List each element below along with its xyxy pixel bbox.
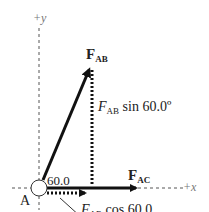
vert-rest: sin 60.0º: [119, 99, 171, 114]
point-a-label: A: [20, 194, 30, 208]
fab-arrow: [43, 70, 89, 180]
horizontal-component-label: FAB cos 60.0: [81, 203, 152, 212]
fab-main: F: [86, 46, 95, 62]
horiz-main: F: [81, 202, 90, 212]
horiz-sub: AB: [90, 209, 103, 212]
fac-label: FAC: [128, 168, 150, 185]
y-axis-label: +y: [33, 12, 46, 24]
x-axis-label: +x: [183, 181, 196, 193]
leader-line: [60, 198, 81, 212]
point-a-circle: [31, 180, 47, 196]
vert-sub: AB: [107, 106, 120, 116]
fab-sub: AB: [95, 54, 108, 64]
horiz-rest: cos 60.0: [102, 202, 152, 212]
vertical-component-label: FAB sin 60.0º: [98, 100, 171, 116]
angle-label: 60.0: [47, 174, 70, 187]
fac-main: F: [128, 167, 137, 183]
vert-main: F: [98, 99, 107, 114]
fab-label: FAB: [86, 47, 108, 64]
fac-sub: AC: [137, 175, 150, 185]
